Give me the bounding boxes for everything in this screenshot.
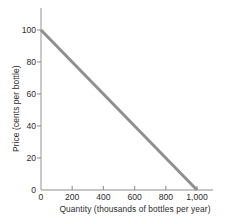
demand-curve-chart: Price (cents per bottle) 020406080100 02… <box>0 0 229 222</box>
x-axis-tick-label: 800 <box>159 193 173 202</box>
demand-curve-line <box>41 30 197 190</box>
x-axis-tick-labels: 02004006008001,000 <box>0 191 229 205</box>
axis-lines <box>41 8 213 190</box>
x-axis-title: Quantity (thousands of bottles per year) <box>41 204 229 214</box>
x-axis-tick-label: 200 <box>65 193 79 202</box>
plot-area <box>0 0 229 222</box>
x-axis-tick-label: 1,000 <box>186 193 208 202</box>
x-axis-tick-label: 400 <box>96 193 110 202</box>
x-axis-tick-label: 0 <box>39 193 44 202</box>
data-series-group <box>41 30 197 190</box>
x-axis-tick-label: 600 <box>127 193 141 202</box>
